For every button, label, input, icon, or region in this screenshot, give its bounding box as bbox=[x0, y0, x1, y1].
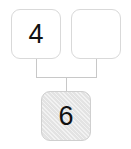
node-addend-right-empty[interactable] bbox=[71, 9, 121, 59]
number-bond-diagram: 4 6 bbox=[0, 0, 131, 149]
node-sum-label: 6 bbox=[58, 103, 73, 130]
node-sum[interactable]: 6 bbox=[41, 91, 91, 141]
node-addend-left-label: 4 bbox=[28, 21, 43, 48]
node-addend-left[interactable]: 4 bbox=[11, 9, 61, 59]
